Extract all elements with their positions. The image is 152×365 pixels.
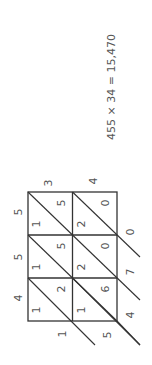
- lattice-multiplication-diagram: 5 5 4 3 4 1 5 2 0 1 5 2 0 1 2 1 6 1 5 4 …: [0, 0, 152, 365]
- multiplicand-digit: 5: [12, 254, 25, 261]
- result-digit: 7: [124, 269, 137, 276]
- multiplier-digit: 3: [42, 180, 55, 187]
- cell-tens: 1: [30, 307, 43, 314]
- cell-ones: 6: [99, 286, 112, 293]
- multiplicand-digit: 4: [12, 295, 25, 302]
- cell-ones: 5: [55, 200, 68, 207]
- cell-diagonal: [28, 192, 73, 235]
- cell-ones: 0: [99, 200, 112, 207]
- result-digit: 1: [56, 331, 69, 338]
- multiplier-digit: 4: [87, 178, 100, 185]
- equation-text: 455 × 34 = 15,470: [105, 34, 118, 140]
- cell-ones: 5: [55, 243, 68, 250]
- result-digit: 4: [124, 312, 137, 319]
- result-digit: 0: [124, 229, 137, 236]
- multiplicand-digit: 5: [12, 209, 25, 216]
- cell-tens: 1: [75, 307, 88, 314]
- cell-tens: 2: [75, 264, 88, 271]
- cell-ones: 2: [55, 286, 68, 293]
- result-digit: 5: [101, 332, 114, 339]
- cell-ones: 0: [99, 243, 112, 250]
- cell-tens: 1: [30, 264, 43, 271]
- cell-tens: 1: [30, 221, 43, 228]
- cell-tens: 2: [75, 221, 88, 228]
- cell-diagonal-extension: [117, 321, 140, 345]
